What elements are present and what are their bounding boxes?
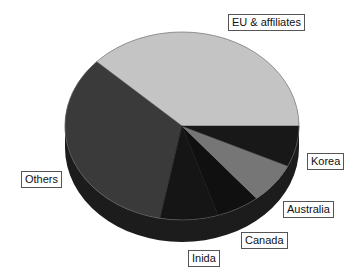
label-australia: Australia xyxy=(283,201,334,218)
pie-slices xyxy=(65,32,299,220)
label-canada: Canada xyxy=(241,232,288,249)
label-eu-affiliates: EU & affiliates xyxy=(228,14,305,31)
label-others: Others xyxy=(21,171,62,188)
pie-chart xyxy=(0,0,360,278)
label-india: Inida xyxy=(188,250,220,267)
label-korea: Korea xyxy=(307,153,344,170)
